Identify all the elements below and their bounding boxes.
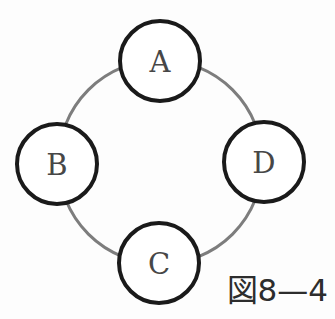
figure-caption: 図8—4 [227, 275, 328, 306]
node-D: D [224, 122, 304, 202]
node-D-label: D [252, 146, 275, 180]
node-C-label: C [148, 247, 170, 281]
node-C: C [119, 223, 199, 303]
figure-8-4: A B C D 図8—4 [0, 0, 335, 319]
node-A: A [120, 21, 200, 101]
node-B: B [17, 124, 97, 204]
node-A-label: A [149, 45, 172, 79]
node-B-label: B [46, 148, 67, 182]
